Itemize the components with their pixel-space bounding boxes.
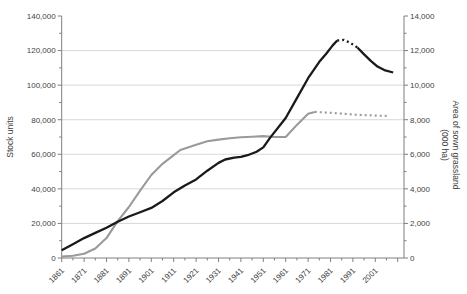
x-tick-label: 1871	[70, 266, 89, 285]
left-tick-label: 60,000	[31, 150, 56, 159]
x-tick-label: 1891	[114, 266, 133, 285]
left-tick-label: 120,000	[27, 46, 56, 55]
x-tick-label: 2001	[361, 266, 380, 285]
x-tick-label: 1991	[338, 266, 357, 285]
right-tick-label: 0	[410, 254, 415, 263]
right-axis-title-line2: (000 ha)	[439, 101, 450, 190]
series-stock-units-dashed	[337, 40, 357, 48]
right-tick-label: 2,000	[410, 219, 431, 228]
x-tick-label: 1961	[271, 266, 290, 285]
right-axis-title: Area of sown grassland (000 ha)	[439, 101, 461, 190]
series-stock-units-solid	[62, 41, 338, 251]
right-tick-label: 14,000	[410, 12, 435, 21]
right-tick-label: 10,000	[410, 81, 435, 90]
series-stock-units-solid	[357, 48, 393, 73]
left-axis-title: Stock units	[5, 116, 16, 158]
left-tick-label: 40,000	[31, 185, 56, 194]
x-tick-label: 1861	[47, 266, 66, 285]
x-tick-label: 1881	[92, 266, 111, 285]
left-tick-label: 0	[51, 254, 56, 263]
plot-area: 020,00040,00060,00080,000100,000120,0001…	[0, 0, 467, 294]
x-tick-label: 1911	[160, 266, 179, 285]
right-tick-label: 4,000	[410, 185, 431, 194]
x-tick-label: 1971	[294, 266, 313, 285]
left-tick-label: 80,000	[31, 116, 56, 125]
x-tick-label: 1941	[226, 266, 245, 285]
x-tick-label: 1951	[249, 266, 268, 285]
x-tick-label: 1901	[137, 266, 156, 285]
x-tick-label: 1981	[316, 266, 335, 285]
left-tick-label: 20,000	[31, 219, 56, 228]
right-tick-label: 12,000	[410, 46, 435, 55]
right-axis-title-line1: Area of sown grassland	[450, 101, 461, 190]
x-tick-label: 1931	[204, 266, 223, 285]
line-chart: 020,00040,00060,00080,000100,000120,0001…	[0, 0, 467, 294]
left-tick-label: 140,000	[27, 12, 56, 21]
right-tick-label: 8,000	[410, 116, 431, 125]
x-tick-label: 1921	[182, 266, 201, 285]
series-sown-grassland-dashed	[315, 112, 389, 116]
right-tick-label: 6,000	[410, 150, 431, 159]
left-tick-label: 100,000	[27, 81, 56, 90]
